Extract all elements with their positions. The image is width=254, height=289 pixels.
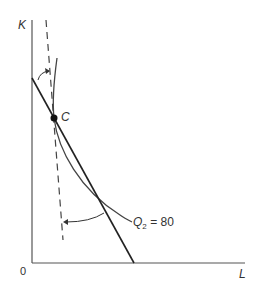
isoquant-value: = 80 (147, 215, 174, 229)
isocost-line (32, 78, 134, 263)
point-c-label: C (61, 111, 70, 123)
x-axis-label: L (239, 268, 246, 280)
tangency-point-c (51, 115, 58, 122)
rotation-arrow-bottom (66, 213, 104, 222)
arrowhead-bottom-icon (63, 219, 68, 225)
isoquant-label: Q2 = 80 (133, 216, 174, 231)
isoquant-curve (53, 58, 132, 222)
y-axis-label: K (18, 19, 26, 31)
diagram-canvas (0, 0, 254, 289)
isoquant-var: Q (133, 215, 142, 229)
origin-label: 0 (20, 266, 26, 277)
